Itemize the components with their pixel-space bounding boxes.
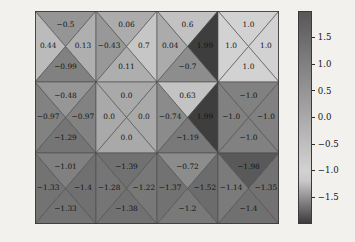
colorbar-tick-mark	[312, 90, 315, 91]
colorbar-tick-label: −1.0	[318, 166, 339, 175]
colorbar-tick-label: 0.0	[318, 113, 332, 122]
colorbar-tick-mark	[312, 64, 315, 65]
colorbar-tick-mark	[312, 117, 315, 118]
colorbar-tick-mark	[312, 37, 315, 38]
colorbar-tick-label: 1.5	[318, 33, 332, 42]
colorbar-tick-mark	[312, 197, 315, 198]
colorbar-tick-label: 0.5	[318, 87, 332, 96]
colorbar-tick-label: −0.5	[318, 140, 339, 149]
heatmap-plot-area: −0.50.440.13−0.990.06−0.430.70.110.60.04…	[35, 11, 279, 224]
colorbar-tick-mark	[312, 144, 315, 145]
figure-caption	[0, 231, 355, 242]
triangle-heatmap-svg: −0.50.440.13−0.990.06−0.430.70.110.60.04…	[35, 11, 279, 224]
colorbar-tick-label: 1.0	[318, 60, 332, 69]
colorbar-tick-label: −1.5	[318, 193, 339, 202]
colorbar-tick-list: 1.51.00.50.0−0.5−1.0−1.5	[312, 11, 355, 224]
colorbar-gradient	[298, 11, 312, 224]
figure-container: −0.50.440.13−0.990.06−0.430.70.110.60.04…	[0, 0, 355, 242]
colorbar-tick-mark	[312, 170, 315, 171]
colorbar: 1.51.00.50.0−0.5−1.0−1.5	[298, 11, 312, 224]
